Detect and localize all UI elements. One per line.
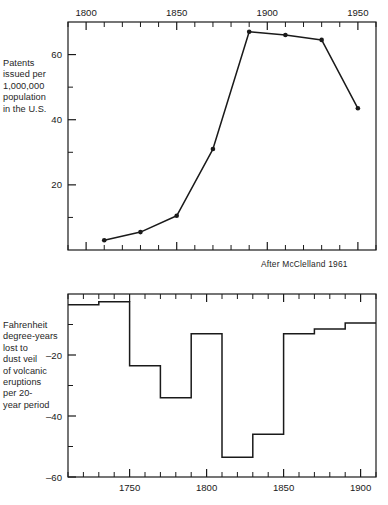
volcanic-ytick-label: –40 — [46, 411, 62, 422]
patents-data-point — [102, 238, 107, 243]
volcanic-y-axis-label: Fahrenheit degree-years lost to dust vei… — [3, 320, 69, 411]
volcanic-ytick-label: –60 — [46, 472, 62, 483]
patents-data-point — [211, 147, 216, 152]
patents-ytick-label: 20 — [51, 179, 62, 190]
patents-y-axis-label: Patents issued per 1,000,000 population … — [3, 58, 65, 115]
patents-ytick-label: 40 — [51, 114, 62, 125]
volcanic-xtick-label: 1800 — [196, 482, 217, 493]
volcanic-dust-chart: Fahrenheit degree-years lost to dust vei… — [0, 282, 388, 505]
patents-data-point — [319, 38, 324, 43]
patents-data-point — [247, 29, 252, 34]
patents-data-point — [138, 230, 143, 235]
volcanic-step-line — [68, 302, 376, 458]
patents-source-credit: After McClelland 1961 — [261, 259, 348, 269]
patents-xtick-label: 1900 — [257, 7, 278, 18]
patents-data-point — [283, 33, 288, 38]
patents-xtick-label: 1800 — [75, 7, 96, 18]
volcanic-xtick-label: 1850 — [273, 482, 294, 493]
patents-data-line — [104, 32, 358, 240]
patents-xtick-label: 1850 — [166, 7, 187, 18]
patents-plot-svg: 1800185019001950204060 — [0, 0, 388, 280]
patents-xtick-label: 1950 — [347, 7, 368, 18]
volcanic-xtick-label: 1900 — [350, 482, 371, 493]
figure-page: Patents issued per 1,000,000 population … — [0, 0, 388, 505]
volcanic-xtick-label: 1750 — [119, 482, 140, 493]
patents-data-point — [174, 214, 179, 219]
patents-chart: Patents issued per 1,000,000 population … — [0, 0, 388, 280]
patents-data-point — [356, 106, 361, 111]
